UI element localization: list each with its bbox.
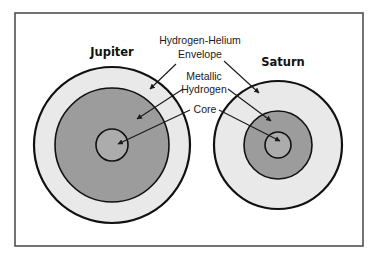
jupiter-planet: Jupiter — [34, 45, 190, 223]
envelope-label: Envelope — [178, 48, 222, 60]
planet-interior-diagram: JupiterSaturn Hydrogen-HeliumEnvelopeMet… — [0, 0, 375, 254]
envelope-leader-saturn — [224, 61, 259, 93]
saturn-title: Saturn — [261, 55, 305, 69]
metallic-label: Metallic — [186, 70, 222, 82]
metallic-label: Hydrogen — [181, 83, 227, 95]
jupiter-title: Jupiter — [89, 45, 134, 59]
saturn-planet: Saturn — [214, 55, 342, 209]
envelope-label: Hydrogen-Helium — [159, 34, 241, 46]
jupiter-core — [96, 129, 128, 161]
core-label: Core — [194, 103, 217, 115]
